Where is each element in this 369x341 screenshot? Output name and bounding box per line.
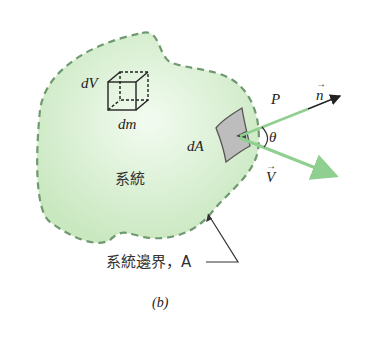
label-point-P: P: [271, 92, 280, 107]
vector-arrow-icon: →: [266, 161, 275, 171]
normal-vector-arrow-tip: [308, 96, 340, 109]
angle-arc: [262, 127, 268, 147]
label-normal-vector: →n: [316, 88, 324, 103]
label-dA: dA: [187, 139, 204, 154]
diagram-canvas: [0, 0, 369, 341]
label-boundary-caption: 系統邊界，A: [106, 255, 191, 270]
vector-arrow-icon: →: [316, 79, 324, 89]
label-dm: dm: [118, 117, 136, 132]
panel-label: (b): [152, 296, 168, 310]
label-system: 系統: [115, 172, 145, 187]
label-dV: dV: [81, 76, 98, 91]
label-theta: θ: [269, 130, 276, 145]
label-velocity-vector: →V: [266, 170, 275, 185]
boundary-leader-line: [206, 214, 238, 262]
